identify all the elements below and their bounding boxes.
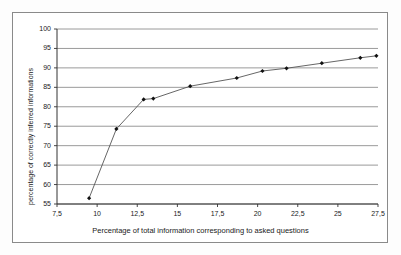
gridlines [57, 29, 378, 204]
data-point-marker [374, 54, 378, 58]
x-tick-label: 17,5 [203, 210, 233, 217]
y-axis-title: percentage of correctly inferred informa… [27, 68, 34, 205]
x-tick-label: 20 [243, 210, 273, 217]
y-tick-label: 95 [25, 44, 51, 51]
chart-figure: 556065707580859095100 7,51012,51517,5202… [0, 0, 401, 255]
data-series-markers [87, 54, 378, 201]
data-point-marker [151, 97, 155, 101]
y-tick-label: 100 [25, 25, 51, 32]
data-point-marker [320, 61, 324, 65]
data-point-marker [284, 66, 288, 70]
data-point-marker [358, 56, 362, 60]
data-point-marker [260, 69, 264, 73]
x-tick-label: 25 [323, 210, 353, 217]
data-point-marker [87, 196, 91, 200]
data-series-line [89, 56, 376, 198]
data-point-marker [235, 76, 239, 80]
x-tick-label: 10 [82, 210, 112, 217]
x-tick-label: 7,5 [42, 210, 72, 217]
x-tick-label: 15 [162, 210, 192, 217]
x-tick-label: 22,5 [283, 210, 313, 217]
x-tick-label: 27,5 [363, 210, 393, 217]
x-tick-label: 12,5 [122, 210, 152, 217]
x-axis-title: Percentage of total information correspo… [0, 226, 401, 235]
